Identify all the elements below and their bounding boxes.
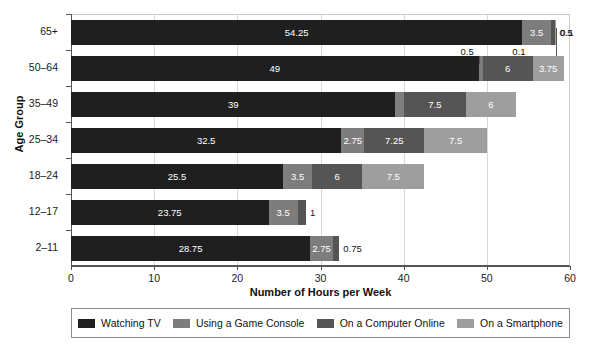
bar-segment-value: 6 [334, 171, 339, 182]
bar-segment-using-a-game-console: 1 [395, 92, 403, 117]
bar-segment-value: 3.75 [539, 63, 558, 74]
legend-label: Using a Game Console [196, 317, 305, 329]
chart-legend: Watching TVUsing a Game ConsoleOn a Comp… [71, 308, 570, 338]
bar-row-5064: 490.563.75 [0, 56, 589, 81]
bar-segment-value: 0.75 [343, 243, 362, 254]
bar-row-1824: 25.53.567.5 [0, 164, 589, 189]
bar-segment-value: 49 [269, 63, 280, 74]
x-tick-label: 60 [550, 272, 589, 284]
bar-row-1217: 23.753.51 [0, 200, 589, 225]
x-tick [321, 266, 322, 270]
bar-segment-watching-tv: 32.5 [71, 128, 341, 153]
bar-row-65+: 54.253.50.50.1 [0, 20, 589, 45]
bar-segment-on-a-computer-online: 0.75 [333, 236, 339, 261]
bar-segment-value: 28.75 [179, 243, 203, 254]
x-tick-label: 30 [301, 272, 341, 284]
bar-segment-watching-tv: 23.75 [71, 200, 269, 225]
bar-segment-on-a-computer-online: 7.5 [404, 92, 466, 117]
legend-swatch-icon [457, 319, 474, 328]
bar-segment-using-a-game-console: 3.5 [522, 20, 551, 45]
legend-item-on-a-smartphone[interactable]: On a Smartphone [457, 317, 563, 329]
bar-segment-value: 2.75 [343, 135, 362, 146]
bar-segment-on-a-computer-online: 6 [312, 164, 362, 189]
bar-segment-on-a-smartphone: 3.75 [533, 56, 564, 81]
legend-label: On a Computer Online [340, 317, 445, 329]
bar-segment-watching-tv: 39 [71, 92, 395, 117]
bar-segment-watching-tv: 54.25 [71, 20, 522, 45]
bar-segment-on-a-smartphone: 7.5 [362, 164, 424, 189]
x-tick [154, 266, 155, 270]
y-tick [66, 230, 71, 231]
stacked-bar-chart: 2–1112–1718–2425–3435–4950–6465+ 0102030… [0, 0, 589, 348]
y-tick [66, 194, 71, 195]
bar-segment-watching-tv: 28.75 [71, 236, 310, 261]
y-tick [66, 50, 71, 51]
y-tick [66, 14, 71, 15]
legend-swatch-icon [317, 319, 334, 328]
legend-item-watching-tv[interactable]: Watching TV [78, 317, 161, 329]
bar-segment-watching-tv: 25.5 [71, 164, 283, 189]
bar-segment-value: 3.5 [530, 27, 543, 38]
x-tick [487, 266, 488, 270]
bar-segment-using-a-game-console: 3.5 [269, 200, 298, 225]
bar-row-3549: 3917.56 [0, 92, 589, 117]
callout-leader-line [479, 56, 480, 64]
bar-segment-value: 32.5 [197, 135, 216, 146]
x-tick-label: 20 [217, 272, 257, 284]
bar-segment-value: 7.5 [428, 99, 441, 110]
bar-segment-value: 7.5 [449, 135, 462, 146]
bar-segment-on-a-computer-online: 7.25 [364, 128, 424, 153]
x-tick-label: 40 [384, 272, 424, 284]
x-tick [71, 266, 72, 270]
callout-label: 0.1 [512, 46, 525, 57]
x-tick-label: 0 [51, 272, 91, 284]
x-tick-label: 50 [467, 272, 507, 284]
bar-segment-value: 0.1 [560, 27, 573, 38]
bar-segment-on-a-computer-online: 6 [483, 56, 533, 81]
y-tick [66, 158, 71, 159]
bar-segment-value: 3.5 [276, 207, 289, 218]
callout-leader-line [556, 28, 557, 56]
legend-label: Watching TV [101, 317, 161, 329]
y-tick [66, 86, 71, 87]
legend-swatch-icon [78, 319, 95, 328]
bar-segment-value: 6 [505, 63, 510, 74]
bar-segment-value: 3.5 [291, 171, 304, 182]
y-tick [66, 122, 71, 123]
legend-swatch-icon [173, 319, 190, 328]
bar-segment-value: 7.5 [387, 171, 400, 182]
bar-segment-using-a-game-console: 2.75 [310, 236, 333, 261]
bar-row-2534: 32.52.757.257.5 [0, 128, 589, 153]
bar-segment-value: 1 [310, 207, 315, 218]
legend-item-on-a-computer-online[interactable]: On a Computer Online [317, 317, 445, 329]
bar-segment-watching-tv: 49 [71, 56, 479, 81]
bar-segment-value: 7.25 [385, 135, 404, 146]
bar-row-211: 28.752.750.75 [0, 236, 589, 261]
bar-segment-using-a-game-console: 3.5 [283, 164, 312, 189]
bar-segment-value: 23.75 [158, 207, 182, 218]
x-tick [570, 266, 571, 270]
y-axis-title: Age Group [13, 84, 25, 164]
x-tick-label: 10 [134, 272, 174, 284]
bar-segment-using-a-game-console: 2.75 [341, 128, 364, 153]
bar-segment-value: 25.5 [168, 171, 187, 182]
bar-segment-value: 2.75 [312, 243, 331, 254]
legend-label: On a Smartphone [480, 317, 563, 329]
callout-label: 0.5 [461, 46, 474, 57]
x-tick [404, 266, 405, 270]
x-axis-title: Number of Hours per Week [71, 286, 570, 298]
bar-segment-value: 39 [228, 99, 239, 110]
legend-item-using-a-game-console[interactable]: Using a Game Console [173, 317, 305, 329]
bar-segment-value: 6 [488, 99, 493, 110]
x-tick [237, 266, 238, 270]
bar-segment-on-a-smartphone: 7.5 [424, 128, 486, 153]
bar-segment-on-a-computer-online: 1 [298, 200, 306, 225]
bar-segment-on-a-smartphone: 6 [466, 92, 516, 117]
bar-segment-value: 54.25 [285, 27, 309, 38]
